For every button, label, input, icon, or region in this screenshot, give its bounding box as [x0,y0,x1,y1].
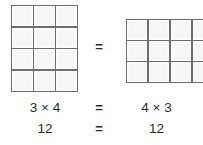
array-cell [193,41,203,61]
equation-left-product: 12 [0,120,88,138]
equation-right-product: 12 [110,120,203,138]
array-cell [12,28,33,48]
equation-operator-products: = [88,120,110,138]
equation-row-factors: 3 × 4 = 4 × 3 [0,97,203,118]
equals-sign-between-arrays: = [88,40,110,54]
array-models-area: = [0,0,203,95]
array-cell [149,41,169,61]
array-cell [12,6,33,26]
commutative-property-figure: = 3 × 4 = 4 × 3 12 = 12 [0,0,203,145]
array-cell [34,71,55,91]
array-cell [12,71,33,91]
array-cell [56,71,77,91]
equations-area: 3 × 4 = 4 × 3 12 = 12 [0,95,203,145]
array-cell [149,20,169,40]
array-cell [34,28,55,48]
array-cell [127,62,147,82]
array-cell [171,62,191,82]
equation-left-factors: 3 × 4 [0,99,88,117]
array-cell [149,62,169,82]
array-cell [171,41,191,61]
array-grid-right-4x3 [126,19,203,83]
equation-row-products: 12 = 12 [0,118,203,139]
equation-operator-factors: = [88,99,110,117]
array-cell [34,6,55,26]
array-cell [12,49,33,69]
array-cell [127,20,147,40]
array-cell [193,20,203,40]
array-cell [56,49,77,69]
array-cell [56,28,77,48]
array-cell [127,41,147,61]
array-cell [171,20,191,40]
array-cell [193,62,203,82]
array-cell [56,6,77,26]
array-cell [34,49,55,69]
array-grid-left-3x4 [11,5,78,92]
equation-right-factors: 4 × 3 [110,99,203,117]
